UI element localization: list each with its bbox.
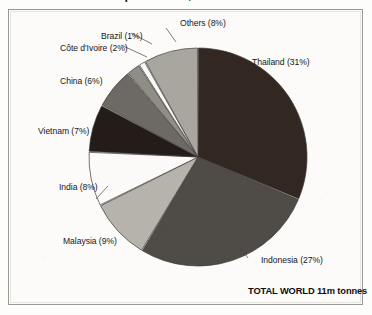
slice-label-thailand: Thailand (31%) (252, 57, 310, 67)
slice-label-indonesia: Indonesia (27%) (261, 255, 323, 265)
pie-slice-group (89, 48, 307, 266)
slice-label-brazil: Brazil (1%) (101, 31, 142, 41)
slice-label-cote-divoire: Côte d'Ivoire (2%) (60, 43, 128, 53)
slice-label-china: China (6%) (60, 76, 103, 86)
slice-label-india: India (8%) (59, 182, 98, 192)
slice-label-vietnam: Vietnam (7%) (38, 126, 89, 136)
slice-label-others: Others (8%) (180, 18, 226, 28)
total-world-label: TOTAL WORLD 11m tonnes (248, 286, 367, 296)
slice-label-malaysia: Malaysia (9%) (63, 236, 117, 246)
leader-line-others (166, 28, 176, 42)
pie-chart (0, 0, 372, 315)
chart-figure: in the natural rubber production, 2000 O… (0, 0, 372, 315)
